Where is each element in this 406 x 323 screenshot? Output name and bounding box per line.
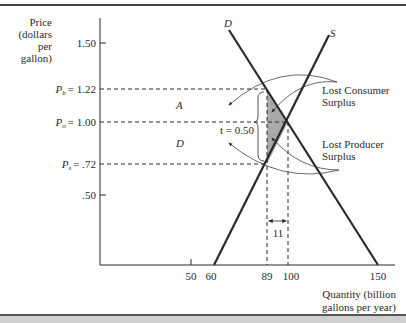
tax-incidence-diagram: Price (dollars per gallon) 1.50 .50 Pb= … <box>0 0 406 323</box>
x-axis-label-1: Quantity (billion <box>322 288 396 301</box>
lost-consumer-surplus-label-2: Surplus <box>322 96 356 108</box>
y-axis-label-1: Price <box>29 16 52 28</box>
region-d-label: D <box>175 137 184 149</box>
lost-producer-surplus-label-1: Lost Producer <box>322 138 384 150</box>
lost-producer-surplus-label-2: Surplus <box>322 150 356 162</box>
y-axis-label-3: per <box>38 40 52 52</box>
x-tick-label-89: 89 <box>262 270 274 282</box>
bottom-border-band <box>0 314 406 323</box>
demand-curve-label: D <box>223 17 232 29</box>
quantity-gap-label: 11 <box>273 227 284 239</box>
region-a-label: A <box>175 99 183 111</box>
po-label: Po= 1.00 <box>55 116 97 130</box>
supply-curve-label: S <box>330 27 336 39</box>
x-tick-label-50: 50 <box>186 270 198 282</box>
x-tick-label-60: 60 <box>206 270 218 282</box>
y-tick-label-050: .50 <box>82 189 96 201</box>
y-axis-label-4: gallon) <box>21 52 52 65</box>
tax-brace <box>254 92 264 161</box>
lost-consumer-surplus-label-1: Lost Consumer <box>322 84 390 96</box>
x-axis-label-2: gallons per year) <box>322 301 396 314</box>
x-tick-label-150: 150 <box>370 270 387 282</box>
tax-label: t = 0.50 <box>220 124 255 136</box>
pb-label: Pb= 1.22 <box>55 83 96 97</box>
supply-curve <box>214 35 329 265</box>
y-tick-label-150: 1.50 <box>77 37 97 49</box>
ps-label: Ps= .72 <box>61 158 96 172</box>
x-tick-label-100: 100 <box>283 270 300 282</box>
